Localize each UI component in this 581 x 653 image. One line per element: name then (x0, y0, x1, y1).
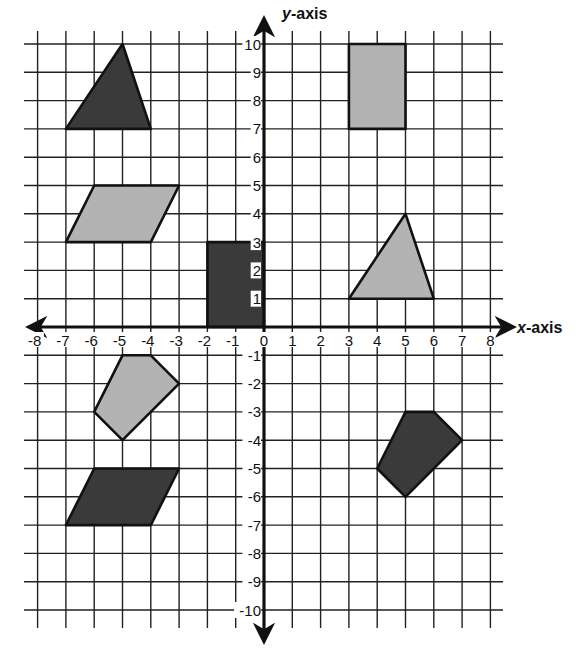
x-tick-label: 3 (345, 332, 353, 349)
y-axis-title: y-axis (281, 5, 327, 22)
y-tick-label: -2 (248, 375, 261, 392)
y-tick-label: -5 (248, 460, 261, 477)
dark-triangle-top-left (66, 44, 151, 129)
light-parallelogram-left (66, 186, 179, 243)
x-tick-label: 5 (401, 332, 409, 349)
x-tick-label: 7 (458, 332, 466, 349)
y-tick-label: -9 (248, 573, 261, 590)
dark-rectangle-center (207, 242, 264, 327)
y-tick-label: 10 (244, 36, 261, 53)
y-tick-label: 8 (253, 92, 261, 109)
y-tick-label: -3 (248, 403, 261, 420)
x-tick-label: -5 (113, 332, 126, 349)
y-tick-label: -10 (239, 602, 261, 619)
x-tick-label: 1 (288, 332, 296, 349)
x-tick-label: -1 (226, 332, 239, 349)
y-tick-label: 5 (253, 177, 261, 194)
y-tick-label: 6 (253, 149, 261, 166)
x-tick-label: -4 (141, 332, 154, 349)
x-tick-label: -6 (85, 332, 98, 349)
y-tick-label: 9 (253, 64, 261, 81)
y-tick-label: -1 (248, 347, 261, 364)
x-tick-label: 6 (430, 332, 438, 349)
x-tick-label: -8 (28, 332, 41, 349)
y-tick-label: 1 (253, 290, 261, 307)
y-tick-label: -8 (248, 545, 261, 562)
y-tick-label: 4 (253, 205, 261, 222)
x-tick-label: 4 (373, 332, 381, 349)
coordinate-plane: -8-7-6-5-4-3-2-101234567812345678910-1-2… (0, 0, 581, 653)
light-pentagon-bottom-left (94, 355, 179, 440)
y-tick-label: 3 (253, 234, 261, 251)
light-rectangle-top-right (349, 44, 406, 129)
x-tick-label: 0 (260, 332, 268, 349)
x-axis-title: x-axis (516, 319, 562, 336)
x-tick-label: -3 (169, 332, 182, 349)
x-tick-label: -2 (198, 332, 211, 349)
y-tick-label: -6 (248, 488, 261, 505)
y-tick-label: 7 (253, 120, 261, 137)
y-tick-label: -7 (248, 517, 261, 534)
light-triangle-right (349, 214, 434, 299)
x-tick-label: 2 (316, 332, 324, 349)
dark-parallelogram-bottom-left (66, 469, 179, 526)
y-tick-label: -4 (248, 432, 261, 449)
x-tick-label: 8 (486, 332, 494, 349)
x-tick-label: -7 (56, 332, 69, 349)
y-tick-label: 2 (253, 262, 261, 279)
dark-pentagon-bottom-right (377, 412, 462, 497)
